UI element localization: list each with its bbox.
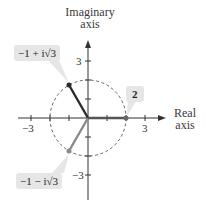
callout-pointer-upper bbox=[46, 58, 69, 83]
callout-pointer-lower bbox=[52, 154, 69, 173]
imaginary-axis-arrow-icon bbox=[85, 40, 91, 48]
vector-upper bbox=[69, 85, 88, 118]
tick-imag-neg3: −3 bbox=[72, 169, 84, 181]
real-axis-arrow-icon bbox=[158, 115, 166, 121]
callout-modulus: 2 bbox=[126, 86, 144, 102]
imaginary-axis-label: Imaginary axis bbox=[62, 6, 118, 30]
tick-real-pos3: 3 bbox=[142, 122, 148, 134]
real-label-line2: axis bbox=[168, 119, 202, 131]
callout-lower-point: −1 − i√3 bbox=[16, 173, 62, 189]
tick-imag-pos3: 3 bbox=[76, 55, 82, 67]
tick-real-neg3: −3 bbox=[22, 122, 34, 134]
vector-lower bbox=[69, 118, 88, 151]
imaginary-label-line2: axis bbox=[62, 18, 118, 30]
point-lower bbox=[67, 149, 72, 154]
real-axis-label: Real axis bbox=[168, 107, 202, 131]
point-right bbox=[124, 116, 129, 121]
point-upper bbox=[67, 83, 72, 88]
callout-upper-point: −1 + i√3 bbox=[14, 45, 60, 61]
